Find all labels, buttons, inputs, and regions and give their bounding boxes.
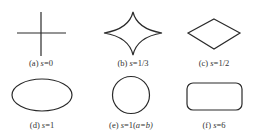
caption-value: =1( (124, 120, 136, 130)
panel-f-caption: (f) s=6 (203, 121, 226, 130)
caption-prefix: (b) (117, 58, 129, 68)
panel-e-caption: (e) s=1(a=b) (109, 121, 153, 130)
caption-prefix: (a) (29, 58, 41, 68)
caption-prefix: (d) (30, 120, 42, 130)
panel-b-astroid-shape (104, 12, 162, 55)
caption-prefix: (c) (199, 58, 211, 68)
caption-value: =1 (45, 120, 54, 130)
panel-d-ellipse-shape (12, 79, 72, 111)
caption-suffix: a=b) (136, 120, 153, 130)
caption-value: =6 (216, 120, 225, 130)
panel-e-circle-shape (113, 77, 150, 114)
panel-c-caption: (c) s=1/2 (199, 59, 230, 68)
caption-value: =1/3 (133, 58, 149, 68)
panel-f-rounded-rect-shape (187, 83, 242, 110)
panel-d-caption: (d) s=1 (30, 121, 54, 130)
panel-a-cross-shape (17, 12, 66, 56)
panel-b-caption: (b) s=1/3 (117, 59, 148, 68)
caption-prefix: (f) (203, 120, 214, 130)
panel-a-caption: (a) s=0 (29, 59, 53, 68)
superellipse-figure (0, 0, 253, 139)
caption-value: =0 (44, 58, 53, 68)
panel-c-diamond-shape (188, 19, 240, 49)
caption-prefix: (e) (109, 120, 121, 130)
caption-value: =1/2 (214, 58, 230, 68)
